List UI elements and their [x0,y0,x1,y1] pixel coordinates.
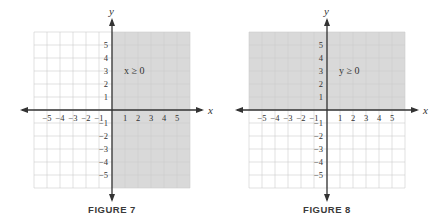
x-tick-label: −5 [42,113,51,123]
x-tick-label: −3 [283,113,292,123]
x-tick-label: −5 [257,113,266,123]
y-axis-label: y [323,5,329,17]
x-tick-label: −2 [296,113,305,123]
figure-7: xy−5−4−3−2−112345−5−4−3−2−112345x ≥ 0 FI… [0,0,224,224]
y-tick-label: 5 [104,40,108,50]
y-axis-label: y [108,5,114,17]
x-tick-label: 2 [351,113,355,123]
x-tick-label: −4 [55,113,65,123]
x-axis-label: x [422,104,428,116]
y-axis-up-arrow-icon [109,18,115,26]
y-tick-label: −4 [314,157,324,167]
y-tick-label: −2 [99,131,108,141]
x-tick-label: 3 [364,113,368,123]
x-tick-label: 1 [123,113,127,123]
y-tick-label: 3 [319,66,323,76]
y-tick-label: −1 [314,118,323,128]
x-axis-right-arrow-icon [411,107,419,113]
x-axis-left-arrow-icon [20,107,28,113]
y-tick-label: 2 [319,79,323,89]
figure-8: xy−5−4−3−2−112345−5−4−3−2−112345y ≥ 0 FI… [215,0,439,224]
y-tick-label: −5 [314,170,323,180]
x-tick-label: 2 [136,113,140,123]
figure-7-caption: FIGURE 7 [0,204,224,215]
x-axis-label: x [207,104,213,116]
inequality-label: y ≥ 0 [339,65,360,76]
y-tick-label: −3 [99,144,108,154]
y-tick-label: −5 [99,170,108,180]
y-tick-label: 2 [104,79,108,89]
x-tick-label: 3 [149,113,153,123]
y-tick-label: 5 [319,40,323,50]
y-axis-down-arrow-icon [109,194,115,202]
x-tick-label: 1 [338,113,342,123]
x-tick-label: 4 [377,113,382,123]
x-tick-label: 5 [390,113,394,123]
y-tick-label: −1 [99,118,108,128]
x-axis-right-arrow-icon [196,107,204,113]
y-axis-down-arrow-icon [324,194,330,202]
x-tick-label: −3 [68,113,77,123]
figure-8-caption: FIGURE 8 [215,204,439,215]
y-tick-label: −2 [314,131,323,141]
y-tick-label: −3 [314,144,323,154]
y-tick-label: 1 [319,92,323,102]
x-tick-label: −4 [270,113,280,123]
x-axis-left-arrow-icon [235,107,243,113]
y-tick-label: 3 [104,66,108,76]
y-tick-label: 1 [104,92,108,102]
x-tick-label: −2 [81,113,90,123]
y-axis-up-arrow-icon [324,18,330,26]
inequality-label: x ≥ 0 [124,65,145,76]
figure-8-plot: xy−5−4−3−2−112345−5−4−3−2−112345y ≥ 0 [215,0,439,224]
x-tick-label: 5 [175,113,179,123]
figure-7-plot: xy−5−4−3−2−112345−5−4−3−2−112345x ≥ 0 [0,0,224,224]
y-tick-label: −4 [99,157,109,167]
